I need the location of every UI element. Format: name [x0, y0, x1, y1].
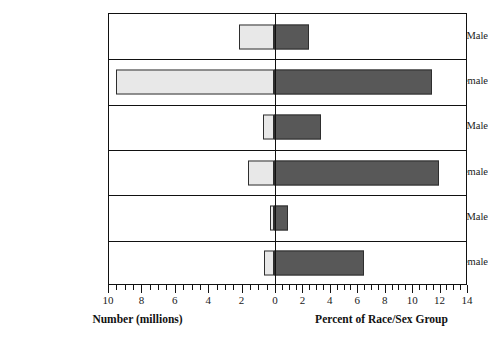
- minor-tick: [364, 285, 365, 290]
- bar-percent-group: [274, 205, 288, 230]
- minor-tick: [289, 285, 290, 290]
- tick-label: 2: [227, 294, 257, 306]
- bar-row: [109, 195, 466, 240]
- minor-tick: [378, 285, 379, 290]
- tick-label: 14: [452, 294, 482, 306]
- minor-tick: [309, 285, 310, 290]
- bar-percent-group: [274, 115, 321, 140]
- bar-percent-group: [274, 24, 308, 49]
- major-tick: [141, 285, 142, 293]
- minor-tick: [150, 285, 151, 290]
- minor-tick: [460, 285, 461, 290]
- bar-number-millions: [239, 24, 274, 49]
- bar-percent-group: [274, 69, 432, 94]
- minor-tick: [337, 285, 338, 290]
- minor-tick: [446, 285, 447, 290]
- left-axis-title: Number (millions): [0, 313, 275, 325]
- major-tick: [467, 285, 468, 293]
- minor-tick: [405, 285, 406, 290]
- major-tick: [330, 285, 331, 293]
- major-tick: [412, 285, 413, 293]
- tick-label: 4: [193, 294, 223, 306]
- bar-number-millions: [116, 69, 275, 94]
- right-axis-title: Percent of Race/Sex Group: [275, 313, 488, 325]
- minor-tick: [433, 285, 434, 290]
- bar-percent-group: [274, 160, 439, 185]
- zero-reference-line: [275, 13, 276, 285]
- major-tick: [175, 285, 176, 293]
- minor-tick: [316, 285, 317, 290]
- minor-tick: [453, 285, 454, 290]
- bar-row: [109, 14, 466, 59]
- bar-number-millions: [264, 251, 274, 276]
- major-tick: [208, 285, 209, 293]
- minor-tick: [258, 285, 259, 290]
- minor-tick: [217, 285, 218, 290]
- minor-tick: [166, 285, 167, 290]
- minor-tick: [158, 285, 159, 290]
- bar-row: [109, 241, 466, 286]
- major-tick: [357, 285, 358, 293]
- tick-label: 10: [93, 294, 123, 306]
- minor-tick: [296, 285, 297, 290]
- bar-number-millions: [263, 115, 275, 140]
- tick-label: 8: [126, 294, 156, 306]
- tick-label: 2: [287, 294, 317, 306]
- major-tick: [108, 285, 109, 293]
- bar-chart: White MaleWhite FemaleBlack MaleBlack Fe…: [0, 0, 488, 348]
- bar-number-millions: [248, 160, 275, 185]
- minor-tick: [192, 285, 193, 290]
- tick-label: 4: [315, 294, 345, 306]
- tick-label: 10: [397, 294, 427, 306]
- bar-row: [109, 150, 466, 195]
- tick-label: 6: [160, 294, 190, 306]
- tick-label: 6: [342, 294, 372, 306]
- minor-tick: [426, 285, 427, 290]
- bar-row: [109, 105, 466, 150]
- major-tick: [385, 285, 386, 293]
- minor-tick: [371, 285, 372, 290]
- tick-label: 12: [425, 294, 455, 306]
- minor-tick: [267, 285, 268, 290]
- major-tick: [302, 285, 303, 293]
- bar-row: [109, 59, 466, 104]
- major-tick: [242, 285, 243, 293]
- minor-tick: [282, 285, 283, 290]
- minor-tick: [233, 285, 234, 290]
- minor-tick: [183, 285, 184, 290]
- minor-tick: [250, 285, 251, 290]
- minor-tick: [225, 285, 226, 290]
- major-tick: [440, 285, 441, 293]
- tick-label: 8: [370, 294, 400, 306]
- minor-tick: [200, 285, 201, 290]
- tick-label: 0: [260, 294, 290, 306]
- minor-tick: [344, 285, 345, 290]
- minor-tick: [350, 285, 351, 290]
- plot-area: [108, 13, 467, 285]
- minor-tick: [133, 285, 134, 290]
- minor-tick: [323, 285, 324, 290]
- bar-percent-group: [274, 251, 363, 276]
- minor-tick: [125, 285, 126, 290]
- minor-tick: [419, 285, 420, 290]
- minor-tick: [116, 285, 117, 290]
- minor-tick: [392, 285, 393, 290]
- minor-tick: [398, 285, 399, 290]
- x-axis: 10864202468101214 Number (millions) Perc…: [0, 285, 488, 348]
- major-tick: [275, 285, 276, 293]
